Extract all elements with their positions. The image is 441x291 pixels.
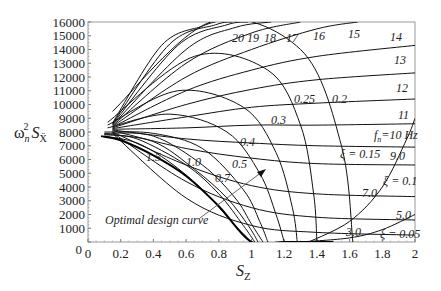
- y-tick-label: 13000: [53, 56, 86, 71]
- frequency-line-18: [113, 22, 249, 124]
- label-xi-0.5: 0.5: [232, 157, 247, 171]
- y-tick-label: 10000: [53, 97, 86, 112]
- y-tick-label: 8000: [59, 125, 85, 140]
- y-tick-label: 9000: [59, 111, 85, 126]
- curve-labels: 20 19 18 17 16 15 14 13 12 11 fn=10 Hz 9…: [105, 27, 420, 241]
- x-tick-label: 1.2: [276, 246, 292, 261]
- label-xi-0.7: 0.7: [215, 171, 231, 185]
- y-tick-label: 1000: [59, 221, 85, 236]
- x-tick-label: 0.2: [113, 246, 129, 261]
- y-tick-label: 7000: [59, 138, 85, 153]
- frequency-line-5.0: [113, 133, 415, 220]
- label-f11: 11: [398, 108, 409, 122]
- label-f9: 9.0: [390, 149, 405, 163]
- label-xi-0.2: 0.2: [332, 92, 347, 106]
- y-tick-label: 14000: [53, 42, 86, 57]
- damping-curves: [104, 19, 415, 242]
- x-tick-label: 0.4: [145, 246, 162, 261]
- label-f20: 20: [232, 31, 244, 45]
- x-tick-label: 1.8: [374, 246, 390, 261]
- x-tick-label: 1: [248, 246, 255, 261]
- label-xi-0.05: ξ = 0.05: [380, 227, 420, 241]
- y-tick-label: 6000: [59, 152, 85, 167]
- label-f12: 12: [396, 81, 408, 95]
- damping-curve-0.15: [113, 19, 353, 242]
- optimal-design-curve-label: Optimal design curve: [105, 213, 209, 227]
- label-xi-0.15: ξ = 0.15: [340, 147, 380, 161]
- label-f3: 3.0: [345, 225, 361, 239]
- y-tick-label: 0: [76, 242, 83, 257]
- label-f15: 15: [348, 27, 360, 41]
- y-tick-label: 3000: [59, 193, 85, 208]
- y-axis-ticks: 0100020003000400050006000700080009000100…: [53, 15, 92, 258]
- label-f17: 17: [286, 31, 299, 45]
- label-xi-1.5: 1.5: [146, 150, 161, 164]
- label-xi-0.1: ξ = 0.1: [383, 174, 417, 188]
- x-tick-label: 1.6: [341, 246, 358, 261]
- y-tick-label: 5000: [59, 166, 85, 181]
- label-xi-0.4: 0.4: [240, 135, 255, 149]
- label-xi-0.25: 0.25: [294, 92, 315, 106]
- label-f13: 13: [394, 53, 406, 67]
- y-tick-label: 4000: [59, 180, 85, 195]
- optimal-design-curve: [101, 136, 333, 245]
- label-f16: 16: [313, 29, 325, 43]
- label-xi-1.0: 1.0: [186, 155, 201, 169]
- label-f10: fn=10 Hz: [374, 128, 418, 144]
- chart-canvas: 00.20.40.60.811.21.41.61.82 010002000300…: [0, 0, 441, 291]
- label-f18: 18: [264, 31, 276, 45]
- x-tick-label: 1.4: [309, 246, 326, 261]
- y-tick-label: 2000: [59, 207, 85, 222]
- y-axis-title: ωn2SẌ: [14, 121, 48, 144]
- x-tick-label: 0.6: [178, 246, 195, 261]
- y-tick-label: 11000: [53, 83, 85, 98]
- label-xi-0.3: 0.3: [271, 113, 286, 127]
- x-axis-title: SZ: [236, 262, 251, 282]
- optimal-design-curve-line: [101, 136, 333, 245]
- y-tick-label: 16000: [53, 15, 86, 30]
- label-f7: 7.0: [362, 186, 377, 200]
- x-tick-label: 2: [412, 246, 419, 261]
- label-f5: 5.0: [396, 208, 411, 222]
- x-tick-label: 0.8: [211, 246, 227, 261]
- x-tick-label: 0: [85, 246, 92, 261]
- y-tick-label: 12000: [53, 70, 86, 85]
- y-tick-label: 15000: [53, 28, 86, 43]
- label-f19: 19: [247, 31, 259, 45]
- frequency-line-10: [113, 130, 415, 147]
- label-f14: 14: [390, 30, 402, 44]
